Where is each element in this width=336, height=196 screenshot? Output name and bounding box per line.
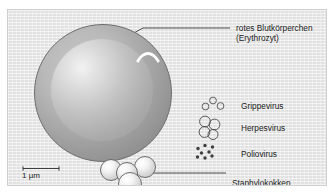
label-staphylokokken: Staphylokokken [232, 178, 291, 186]
scale-bar-unit: mm [48, 182, 61, 186]
herpes-virus-particles-icon [197, 115, 229, 141]
label-grippevirus: Grippevirus [241, 101, 283, 111]
scale-bar-fraction: 1/1000 [27, 183, 46, 186]
scale-bar-length-label: 1 µm [22, 171, 40, 180]
highlight-crescent-right [127, 52, 169, 154]
polio-virus-dots-icon [194, 143, 222, 163]
scale-bar-numerator: 1 [27, 183, 31, 186]
illustration-panel: rotes Blutkörperchen (Erythrozyt) Grippe… [7, 9, 327, 186]
label-poliovirus: Poliovirus [241, 149, 277, 159]
label-red-blood-cell: rotes Blutkörperchen (Erythrozyt) [236, 23, 313, 44]
highlight-crescent-left [54, 56, 88, 142]
label-red-blood-cell-line2: (Erythrozyt) [236, 33, 313, 43]
label-red-blood-cell-line1: rotes Blutkörperchen [236, 23, 313, 33]
figure-illustration: rotes Blutkörperchen (Erythrozyt) Grippe… [0, 0, 336, 196]
scale-bar-equivalence: =1/1000 mm [22, 182, 61, 186]
label-herpesvirus: Herpesvirus [241, 123, 285, 133]
influenza-virus-particles-icon [201, 96, 231, 112]
red-blood-cell [34, 24, 172, 162]
